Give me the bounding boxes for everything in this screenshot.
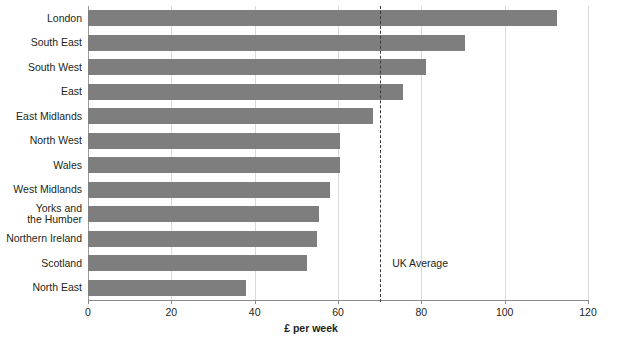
bar: [88, 35, 465, 51]
bar-chart: LondonSouth EastSouth WestEastEast Midla…: [0, 0, 622, 341]
x-tick-label: 80: [415, 306, 427, 318]
bar: [88, 108, 373, 124]
uk-average-line: [380, 6, 381, 302]
bar: [88, 84, 403, 100]
x-tick-label: 40: [249, 306, 261, 318]
bar: [88, 255, 307, 271]
y-axis-label: Northern Ireland: [6, 233, 88, 245]
y-axis-label: North East: [32, 282, 88, 294]
bar-row: [88, 280, 588, 296]
x-tick-label: 120: [579, 306, 597, 318]
x-tick-20: [171, 300, 172, 304]
x-tick-label: 60: [332, 306, 344, 318]
bar: [88, 133, 340, 149]
clipped-title-strip: [88, 0, 588, 5]
y-axis-label: Yorks and the Humber: [27, 203, 88, 226]
bar-row: [88, 59, 588, 75]
bar: [88, 10, 557, 26]
x-tick-40: [255, 300, 256, 304]
x-tick-100: [505, 300, 506, 304]
y-axis-label: East: [61, 86, 88, 98]
bar: [88, 157, 340, 173]
bar: [88, 231, 317, 247]
y-axis-labels: LondonSouth EastSouth WestEastEast Midla…: [0, 6, 88, 300]
gridline-120: [588, 6, 589, 300]
y-axis-label: London: [47, 13, 88, 25]
x-tick-label: 100: [496, 306, 514, 318]
y-axis-label: West Midlands: [13, 184, 88, 196]
x-tick-80: [421, 300, 422, 304]
y-axis-label: North West: [30, 135, 88, 147]
bar-row: [88, 84, 588, 100]
y-axis-label: South West: [28, 62, 88, 74]
y-axis-label: East Midlands: [16, 111, 88, 123]
bar-row: [88, 182, 588, 198]
y-axis-label: Scotland: [41, 258, 88, 270]
x-tick-0: [88, 300, 89, 304]
y-axis-label: South East: [31, 37, 88, 49]
bar-row: [88, 108, 588, 124]
x-tick-60: [338, 300, 339, 304]
bar: [88, 59, 426, 75]
x-axis-title: £ per week: [0, 322, 622, 334]
uk-average-label: UK Average: [392, 257, 448, 269]
bar-row: [88, 231, 588, 247]
bar-row: [88, 206, 588, 222]
bar: [88, 280, 246, 296]
bar: [88, 206, 319, 222]
x-tick-label: 20: [165, 306, 177, 318]
plot-area: UK Average: [88, 6, 588, 300]
bar-row: [88, 35, 588, 51]
x-tick-label: 0: [85, 306, 91, 318]
bar: [88, 182, 330, 198]
bar-row: [88, 255, 588, 271]
bar-row: [88, 157, 588, 173]
bar-row: [88, 133, 588, 149]
y-axis-label: Wales: [53, 160, 88, 172]
bar-row: [88, 10, 588, 26]
x-tick-120: [588, 300, 589, 304]
